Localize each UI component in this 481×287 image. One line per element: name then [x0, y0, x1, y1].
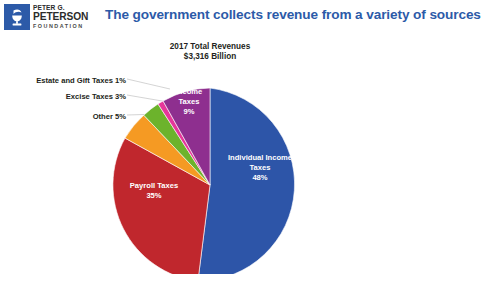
pie-label-corporate-income-taxes: Corporate Income Taxes 9%	[158, 77, 220, 117]
page-header: PETER G. PETERSON FOUNDATION The governm…	[0, 0, 408, 34]
pie-label-other: Other 5%	[4, 112, 126, 121]
logo-line-2: PETERSON	[33, 12, 88, 22]
pie-label-individual-line-1: Individual Income	[214, 153, 306, 163]
pie-label-corporate-line-3: Taxes	[158, 97, 220, 107]
logo-wordmark: PETER G. PETERSON FOUNDATION	[33, 5, 88, 29]
pie-label-estate-and-gift-taxes: Estate and Gift Taxes 1%	[4, 76, 126, 85]
pie-label-individual-line-2: Taxes	[214, 163, 306, 173]
pie-chart: 2017 Total Revenues $3,316 Billion Es	[0, 34, 408, 274]
pie-label-payroll-value: 35%	[112, 191, 196, 201]
pie-label-corporate-line-2: Income	[158, 87, 220, 97]
peterson-foundation-logo: PETER G. PETERSON FOUNDATION	[4, 4, 88, 30]
logo-line-1: PETER G.	[33, 5, 88, 12]
pie-label-individual-value: 48%	[214, 173, 306, 183]
logo-line-3: FOUNDATION	[33, 24, 88, 29]
page-title: The government collects revenue from a v…	[105, 7, 481, 22]
pie-label-excise-taxes: Excise Taxes 3%	[4, 92, 126, 101]
pie-label-payroll-line-1: Payroll Taxes	[112, 181, 196, 191]
pie-label-individual-income-taxes: Individual Income Taxes 48%	[214, 153, 306, 183]
pie-label-corporate-value: 9%	[158, 107, 220, 117]
pie-label-corporate-line-1: Corporate	[158, 77, 220, 87]
pie-svg	[0, 34, 408, 274]
torch-lamp-icon	[4, 4, 30, 30]
pie-label-payroll-taxes: Payroll Taxes 35%	[112, 181, 196, 201]
